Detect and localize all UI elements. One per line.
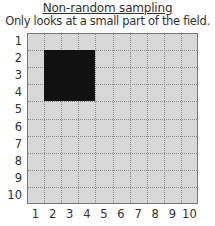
x-axis-label: 1 xyxy=(27,207,44,221)
y-axis-label: 1 xyxy=(2,34,22,48)
sampled-region xyxy=(44,50,95,101)
grid-horizontal-line xyxy=(28,136,197,137)
x-axis-label: 8 xyxy=(147,207,164,221)
grid-vertical-line xyxy=(147,34,148,203)
x-axis-label: 6 xyxy=(113,207,130,221)
y-axis-label: 2 xyxy=(2,51,22,65)
y-axis-label: 8 xyxy=(2,154,22,168)
diagram-title: Non-random sampling xyxy=(0,1,215,15)
y-axis-label: 10 xyxy=(2,188,22,202)
x-axis-label: 10 xyxy=(181,207,198,221)
diagram-subtitle: Only looks at a small part of the field. xyxy=(0,14,215,28)
x-axis-label: 4 xyxy=(78,207,95,221)
grid-vertical-line xyxy=(164,34,165,203)
x-axis-label: 5 xyxy=(95,207,112,221)
y-axis-label: 3 xyxy=(2,68,22,82)
grid-vertical-line xyxy=(181,34,182,203)
grid-horizontal-line xyxy=(28,119,197,120)
x-axis-label: 9 xyxy=(164,207,181,221)
field-grid xyxy=(27,33,198,204)
grid-horizontal-line xyxy=(28,187,197,188)
x-axis-label: 2 xyxy=(44,207,61,221)
y-axis-label: 9 xyxy=(2,171,22,185)
grid-horizontal-line xyxy=(28,170,197,171)
grid-horizontal-line xyxy=(28,153,197,154)
y-axis-label: 5 xyxy=(2,102,22,116)
y-axis-label: 4 xyxy=(2,85,22,99)
grid-vertical-line xyxy=(130,34,131,203)
x-axis-label: 3 xyxy=(61,207,78,221)
y-axis-label: 7 xyxy=(2,137,22,151)
x-axis-label: 7 xyxy=(130,207,147,221)
y-axis-label: 6 xyxy=(2,120,22,134)
